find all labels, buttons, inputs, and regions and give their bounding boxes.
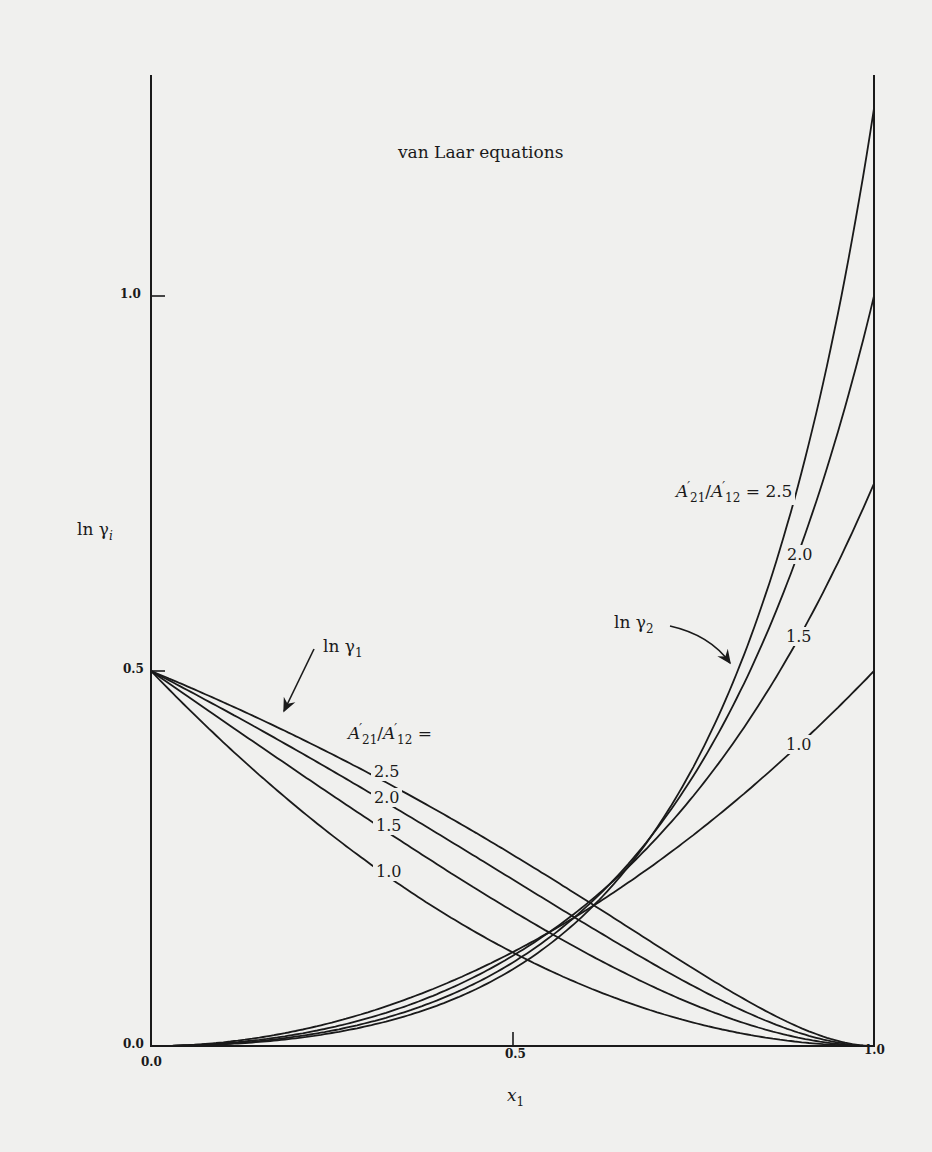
ln-gamma2-arrow (670, 626, 730, 663)
ratio-sub-12: 12 (725, 491, 740, 505)
ln-gamma2-label: ln γ2 (614, 612, 654, 636)
ratio-sub-21: 21 (690, 491, 705, 505)
ln-gamma2-text: ln γ (614, 612, 646, 632)
y-tick-label-05: 0.5 (123, 662, 144, 676)
ln-gamma1-curve-2-5 (151, 671, 874, 1046)
left-label-2-0: 2.0 (371, 788, 402, 807)
y-axis-label-text: ln γ (77, 519, 109, 539)
ln-gamma1-text: ln γ (323, 636, 355, 656)
left-ratio-header: A′21/A′12 = (348, 722, 432, 747)
axes (150, 75, 875, 1047)
x-tick-label-05: 0.5 (505, 1047, 526, 1061)
ln-gamma1-curve-2 (151, 671, 874, 1046)
right-label-2-0: 2.0 (784, 545, 815, 564)
ln-gamma1-sub: 1 (355, 646, 363, 660)
x-tick-label-1: 1.0 (864, 1043, 885, 1057)
left-label-1-0: 1.0 (373, 862, 404, 881)
right-label-1-5: 1.5 (783, 627, 814, 646)
x-axis-label-sub: 1 (517, 1095, 525, 1109)
y-tick-label-1: 1.0 (120, 287, 141, 301)
ln-gamma1-arrow (284, 649, 314, 711)
y-axis-label: ln γi (77, 519, 113, 543)
ln-gamma1-curve-1-5 (151, 671, 874, 1046)
chart-title: van Laar equations (398, 142, 563, 162)
y-axis-label-sub: i (109, 529, 113, 543)
ln-gamma2-curve-1-5 (151, 484, 874, 1047)
right-label-1-0: 1.0 (783, 735, 814, 754)
y-tick-label-0: 0.0 (123, 1037, 144, 1051)
x-axis-label-var: x (507, 1085, 517, 1105)
left-label-2-5: 2.5 (371, 762, 402, 781)
ln-gamma2-curve-1 (151, 671, 874, 1046)
ln-gamma2-sub: 2 (646, 622, 654, 636)
ln-gamma1-label: ln γ1 (323, 636, 363, 660)
ln-gamma2-curve-2-5 (151, 109, 874, 1047)
ratio-equals-value: = 2.5 (740, 481, 792, 501)
x-tick-label-0: 0.0 (141, 1055, 162, 1069)
left-label-1-5: 1.5 (373, 816, 404, 835)
x-axis-label: x1 (507, 1085, 524, 1109)
ratio-sub-21: 21 (362, 733, 377, 747)
ratio-equals: = (412, 723, 432, 743)
ln-gamma2-curve-2 (151, 296, 874, 1046)
ln-gamma1-curve-1 (151, 671, 874, 1046)
chart-canvas (0, 0, 932, 1152)
curves (151, 109, 874, 1047)
right-ratio-header: A′21/A′12 = 2.5 (673, 480, 795, 505)
ratio-sub-12: 12 (397, 733, 412, 747)
